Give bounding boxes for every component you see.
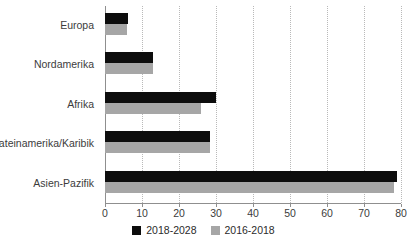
bar-group <box>105 45 401 84</box>
x-tick-label: 20 <box>173 207 185 219</box>
y-axis-category-labels: EuropaNordamerikaAfrikaLateinamerika/Kar… <box>0 6 100 203</box>
legend-swatch-icon <box>211 226 220 235</box>
x-tick-label: 60 <box>321 207 333 219</box>
bar-group <box>105 85 401 124</box>
y-axis-label: Europa <box>60 6 94 45</box>
x-axis-ticks: 01020304050607080 <box>105 204 401 220</box>
x-tick-label: 10 <box>136 207 148 219</box>
gridline-80 <box>401 6 402 203</box>
legend-swatch-icon <box>132 226 141 235</box>
x-tick-label: 70 <box>358 207 370 219</box>
plot-area <box>105 6 401 203</box>
x-tick-label: 50 <box>284 207 296 219</box>
bar <box>105 131 210 142</box>
bar <box>105 13 128 24</box>
bar-group <box>105 164 401 203</box>
x-tick-label: 0 <box>102 207 108 219</box>
y-axis-label: Afrika <box>67 85 94 124</box>
bar-group <box>105 6 401 45</box>
y-axis-label: Lateinamerika/Karibik <box>0 124 94 163</box>
bar <box>105 171 397 182</box>
bar <box>105 63 153 74</box>
bar <box>105 182 394 193</box>
legend-item[interactable]: 2018-2028 <box>132 224 196 236</box>
chart-legend: 2018-20282016-2018 <box>0 224 407 236</box>
x-tick-label: 80 <box>395 207 407 219</box>
bar <box>105 142 210 153</box>
bar-group <box>105 124 401 163</box>
bar <box>105 92 216 103</box>
bar <box>105 52 153 63</box>
bar-chart: EuropaNordamerikaAfrikaLateinamerika/Kar… <box>0 0 407 242</box>
legend-item[interactable]: 2016-2018 <box>211 224 275 236</box>
x-tick-label: 30 <box>210 207 222 219</box>
bar <box>105 24 127 35</box>
x-tick-label: 40 <box>247 207 259 219</box>
legend-label: 2018-2028 <box>146 224 196 236</box>
y-axis-label: Nordamerika <box>34 45 94 84</box>
y-axis-label: Asien-Pazifik <box>33 164 94 203</box>
bar <box>105 103 201 114</box>
legend-label: 2016-2018 <box>225 224 275 236</box>
